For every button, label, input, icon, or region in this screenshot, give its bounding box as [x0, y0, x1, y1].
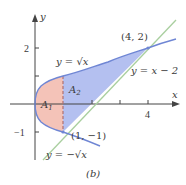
x-tick-label-4: 4 [145, 109, 150, 120]
label-point-4-2: (4, 2) [121, 31, 148, 42]
x-axis-arrow-icon [172, 101, 180, 107]
area-diagram: y x 2 −1 4 y = √x y = x − 2 y = −√x (4, … [0, 0, 186, 185]
point-4-2 [146, 46, 149, 49]
y-tick-label-2: 2 [24, 43, 29, 54]
point-1-neg1 [61, 130, 64, 133]
figure-caption: (b) [86, 168, 100, 179]
label-upper-curve: y = √x [55, 56, 89, 67]
x-axis-label: x [172, 89, 178, 100]
y-tick-label-neg1: −1 [14, 127, 25, 138]
y-axis-label: y [39, 11, 46, 22]
label-point-1-neg1: (1, −1) [71, 130, 106, 141]
label-line: y = x − 2 [130, 65, 178, 76]
y-axis-arrow-icon [32, 14, 38, 22]
label-lower-curve: y = −√x [45, 149, 87, 160]
